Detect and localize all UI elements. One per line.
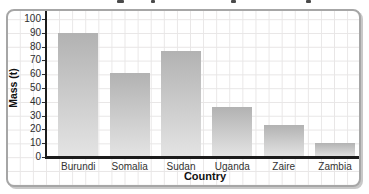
bar-burundi (58, 33, 98, 157)
bar-uganda (212, 107, 252, 157)
x-axis-title: Country (145, 170, 265, 182)
y-axis-line (45, 11, 47, 159)
y-tick-label: 0 (15, 151, 41, 163)
y-tick-label: 10 (15, 137, 41, 149)
bar-zaire (264, 125, 304, 157)
x-axis-line (45, 156, 359, 159)
cropped-text-artifact (306, 0, 311, 3)
x-category-label: Zambia (305, 161, 365, 173)
y-tick-label: 90 (15, 27, 41, 39)
cropped-text-artifact (117, 0, 124, 3)
y-tick-label: 100 (15, 13, 41, 25)
cropped-text-artifact (151, 0, 155, 3)
bar-somalia (110, 73, 150, 157)
cropped-text-artifact (231, 0, 236, 3)
y-tick-label: 80 (15, 41, 41, 53)
bar-sudan (161, 51, 201, 157)
y-axis-title: Mass (t) (7, 58, 21, 118)
bar-zambia (315, 143, 355, 157)
chart-panel: 0102030405060708090100 BurundiSomaliaSud… (6, 9, 361, 187)
screenshot-root: 0102030405060708090100 BurundiSomaliaSud… (0, 0, 369, 194)
y-tick-label: 20 (15, 123, 41, 135)
